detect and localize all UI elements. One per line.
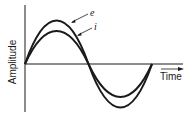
sine-wave-diagram: e i Time Amplitude: [0, 0, 195, 120]
arrowhead-e: [71, 20, 76, 24]
arrowhead-i: [77, 33, 82, 37]
series-label-i: i: [94, 21, 97, 32]
x-axis-label: Time: [160, 71, 182, 82]
y-axis-label: Amplitude: [7, 39, 18, 84]
series-label-e: e: [90, 7, 95, 18]
